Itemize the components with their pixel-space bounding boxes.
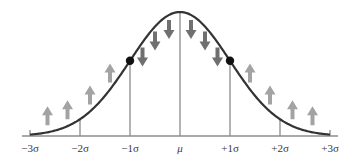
arrow-down-icon: [164, 20, 175, 39]
arrow-up-icon: [85, 85, 96, 104]
arrow-up-icon: [42, 106, 53, 125]
x-label-minus-1sigma: −1σ: [121, 142, 139, 154]
inflection-point: [126, 57, 134, 65]
x-axis-labels: −3σ −2σ −1σ μ +1σ +2σ +3σ: [21, 142, 339, 154]
arrow-up-icon: [307, 106, 318, 125]
arrow-down-icon: [137, 47, 148, 66]
arrow-up-icon: [105, 63, 116, 82]
normal-distribution-diagram: −3σ −2σ −1σ μ +1σ +2σ +3σ: [0, 0, 359, 162]
x-label-mu: μ: [176, 142, 183, 154]
arrow-up-icon: [245, 63, 256, 82]
arrow-down-icon: [150, 32, 161, 51]
arrow-up-icon: [287, 100, 298, 119]
arrow-up-icon: [62, 100, 73, 119]
sigma-lines: [30, 12, 330, 136]
arrow-down-icon: [212, 47, 223, 66]
x-label-plus-2sigma: +2σ: [271, 142, 289, 154]
inflection-point: [226, 57, 234, 65]
arrow-up-icon: [265, 85, 276, 104]
x-label-plus-3sigma: +3σ: [321, 142, 339, 154]
x-label-minus-2sigma: −2σ: [71, 142, 89, 154]
arrow-down-icon: [200, 32, 211, 51]
arrow-down-icon: [186, 20, 197, 39]
x-label-plus-1sigma: +1σ: [221, 142, 239, 154]
x-label-minus-3sigma: −3σ: [21, 142, 39, 154]
